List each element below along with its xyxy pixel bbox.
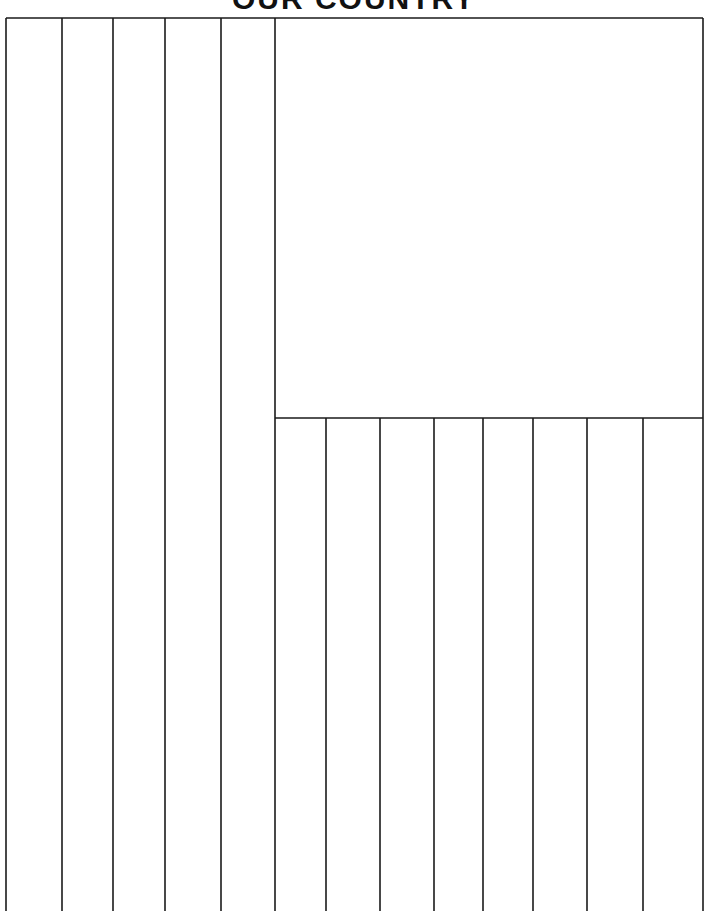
flag-outline-drawing <box>0 0 708 911</box>
